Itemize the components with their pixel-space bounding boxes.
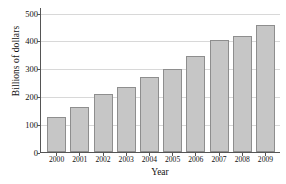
bar-slot — [138, 8, 161, 152]
bar — [210, 40, 229, 152]
x-axis-tick-label: 2000 — [45, 155, 68, 164]
bar-slot — [115, 8, 138, 152]
x-axis-tick-label: 2004 — [138, 155, 161, 164]
bar-slot — [231, 8, 254, 152]
bar — [70, 107, 89, 152]
bar-slot — [91, 8, 114, 152]
bar — [94, 94, 113, 152]
x-axis-tick-label: 2007 — [207, 155, 230, 164]
x-axis-tick-label: 2005 — [161, 155, 184, 164]
bar — [256, 25, 275, 152]
x-axis-tick-label: 2003 — [115, 155, 138, 164]
bar — [47, 117, 66, 152]
bar — [140, 77, 159, 152]
x-axis-tick-label: 2002 — [91, 155, 114, 164]
bar-slot — [184, 8, 207, 152]
x-axis-tick-label: 2006 — [184, 155, 207, 164]
bar — [233, 36, 252, 152]
x-axis-title: Year — [40, 167, 280, 177]
bar-slot — [161, 8, 184, 152]
bar — [163, 69, 182, 152]
bar — [117, 87, 136, 152]
x-axis-tick-label: 2009 — [254, 155, 277, 164]
y-axis-tick-labels: 0100200300400500 — [14, 0, 38, 184]
y-axis-tick-mark — [37, 153, 40, 154]
bar-slot — [207, 8, 230, 152]
x-axis-tick-label: 2001 — [68, 155, 91, 164]
bar-chart: Billions of dollars 0100200300400500 200… — [0, 0, 286, 184]
bar-slot — [254, 8, 277, 152]
bar-slot — [45, 8, 68, 152]
bar-series — [41, 8, 280, 152]
x-axis-tick-label: 2008 — [231, 155, 254, 164]
plot-area — [40, 8, 280, 153]
bar-slot — [68, 8, 91, 152]
bar — [186, 56, 205, 152]
x-axis-tick-labels: 2000200120022003200420052006200720082009 — [41, 155, 280, 164]
